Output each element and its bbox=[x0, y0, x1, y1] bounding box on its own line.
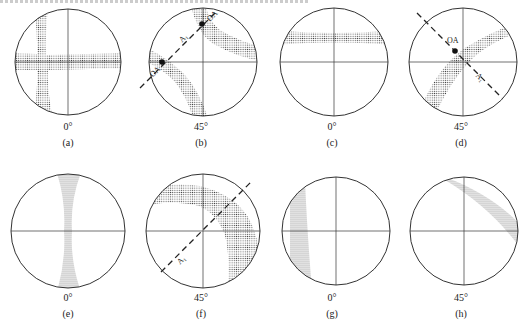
rotation-angle-label: 45° bbox=[181, 121, 221, 132]
rotation-angle-label: 45° bbox=[181, 292, 221, 303]
interference-figures-diagram: OA OA A₁ OA A₁ bbox=[0, 0, 528, 332]
panel-d: OA A₁ bbox=[409, 8, 525, 116]
panel-caption: (c) bbox=[312, 137, 352, 148]
panel-b: OA OA A₁ bbox=[140, 0, 265, 125]
panel-caption: (b) bbox=[181, 137, 221, 148]
rotation-angle-label: 0° bbox=[48, 292, 88, 303]
rotation-angle-label: 0° bbox=[312, 292, 352, 303]
panel-h bbox=[410, 175, 525, 285]
optic-axis-label: OA bbox=[447, 36, 459, 45]
rotation-angle-label: 45° bbox=[441, 292, 481, 303]
panel-e bbox=[11, 170, 125, 295]
panel-caption: (g) bbox=[312, 308, 352, 319]
acute-bisectrix-label: A₁ bbox=[474, 71, 487, 84]
panel-caption: (e) bbox=[48, 308, 88, 319]
panel-f: A₁ bbox=[146, 174, 265, 288]
rotation-angle-label: 0° bbox=[312, 121, 352, 132]
panel-caption: (d) bbox=[441, 137, 481, 148]
panel-c bbox=[275, 8, 395, 116]
panel-caption: (h) bbox=[441, 308, 481, 319]
panel-caption: (a) bbox=[48, 137, 88, 148]
panel-caption: (f) bbox=[181, 308, 221, 319]
panel-g bbox=[282, 177, 390, 290]
rotation-angle-label: 45° bbox=[441, 121, 481, 132]
acute-bisectrix-label: A₁ bbox=[177, 32, 190, 45]
rotation-angle-label: 0° bbox=[48, 121, 88, 132]
panel-a bbox=[10, 5, 130, 120]
